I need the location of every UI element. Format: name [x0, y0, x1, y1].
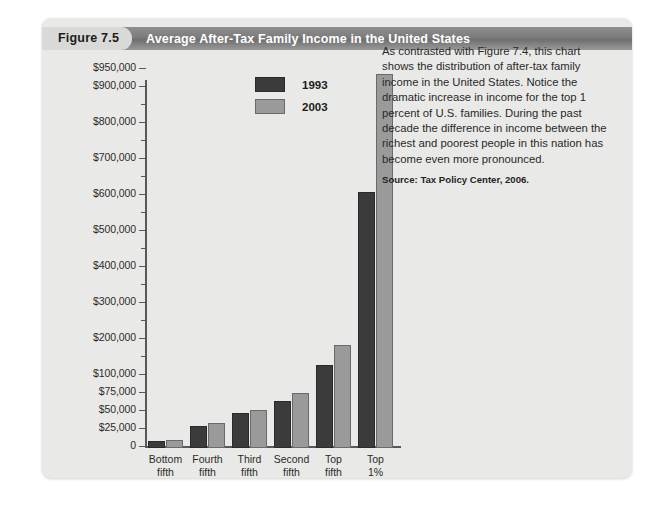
y-axis-minor-tick: [141, 176, 146, 177]
y-axis-minor-tick: [141, 284, 146, 285]
bar-top-1--1993: [358, 192, 375, 448]
y-axis-tick-label: $600,000: [48, 187, 136, 199]
y-axis-tick-label: $800,000: [48, 115, 136, 127]
y-axis-tick-label: 0: [48, 439, 136, 451]
bar-bottom-fifth-1993: [148, 441, 165, 448]
y-axis-tick-label: $50,000: [48, 403, 136, 415]
bar-fourth-fifth-1993: [190, 426, 207, 448]
legend-label-1993: 1993: [302, 79, 328, 91]
legend-label-2003: 2003: [302, 101, 328, 113]
chart-legend: 1993 2003: [255, 77, 375, 121]
legend-swatch-1993: [255, 77, 285, 92]
y-axis-tick-label: $700,000: [48, 151, 136, 163]
figure-number-tab: Figure 7.5: [42, 27, 132, 50]
bar-fourth-fifth-2003: [208, 423, 225, 448]
x-axis-label-2: Thirdfifth: [226, 453, 273, 478]
y-axis-tick-label: $500,000: [48, 223, 136, 235]
y-axis-tick: [139, 410, 146, 411]
y-axis-tick-label: $950,000: [48, 61, 136, 73]
legend-swatch-2003: [255, 99, 285, 114]
y-axis-minor-tick: [141, 356, 146, 357]
y-axis-tick: [139, 392, 146, 393]
y-axis-tick: [139, 428, 146, 429]
bar-second-fifth-2003: [292, 393, 309, 448]
y-axis-tick-label: $100,000: [48, 367, 136, 379]
y-axis-tick-label: $75,000: [48, 385, 136, 397]
y-axis-minor-tick: [141, 212, 146, 213]
y-axis-tick: [139, 158, 146, 159]
caption-text: As contrasted with Figure 7.4, this char…: [382, 44, 612, 167]
y-axis-tick: [139, 122, 146, 123]
y-axis-tick: [139, 266, 146, 267]
y-axis-labels: 0$25,000$50,000$75,000$100,000$200,000$3…: [42, 50, 136, 478]
y-axis-tick: [139, 230, 146, 231]
x-axis-category-labels: BottomfifthFourthfifthThirdfifthSecondfi…: [145, 449, 405, 478]
bar-bottom-fifth-2003: [166, 440, 183, 448]
y-axis-minor-tick: [141, 140, 146, 141]
y-axis-tick-label: $400,000: [48, 259, 136, 271]
bar-third-fifth-2003: [250, 410, 267, 448]
y-axis-tick: [139, 374, 146, 375]
y-axis-tick: [139, 86, 146, 87]
y-axis-minor-tick: [141, 320, 146, 321]
y-axis-tick: [139, 446, 146, 447]
y-axis-tick-label: $200,000: [48, 331, 136, 343]
y-axis-minor-tick: [141, 248, 146, 249]
legend-item-1993: 1993: [255, 77, 375, 92]
y-axis-tick: [139, 194, 146, 195]
figure-caption: As contrasted with Figure 7.4, this char…: [382, 44, 612, 185]
y-axis-minor-tick: [141, 104, 146, 105]
y-axis-tick: [139, 68, 146, 69]
bar-top-fifth-2003: [334, 345, 351, 448]
bar-top-fifth-1993: [316, 365, 333, 448]
x-axis-label-4: Topfifth: [310, 453, 357, 478]
legend-item-2003: 2003: [255, 99, 375, 114]
bar-third-fifth-1993: [232, 413, 249, 448]
y-axis-tick-label: $900,000: [48, 79, 136, 91]
caption-source: Source: Tax Policy Center, 2006.: [382, 174, 612, 185]
x-axis-label-1: Fourthfifth: [184, 453, 231, 478]
x-axis-label-5: Top1%: [352, 453, 399, 478]
bar-second-fifth-1993: [274, 401, 291, 448]
y-axis-tick: [139, 338, 146, 339]
y-axis-tick-label: $300,000: [48, 295, 136, 307]
figure-panel: Figure 7.5 Average After-Tax Family Inco…: [42, 18, 632, 478]
y-axis-tick: [139, 302, 146, 303]
x-axis-label-3: Secondfifth: [268, 453, 315, 478]
x-axis-label-0: Bottomfifth: [142, 453, 189, 478]
y-axis-tick-label: $25,000: [48, 421, 136, 433]
